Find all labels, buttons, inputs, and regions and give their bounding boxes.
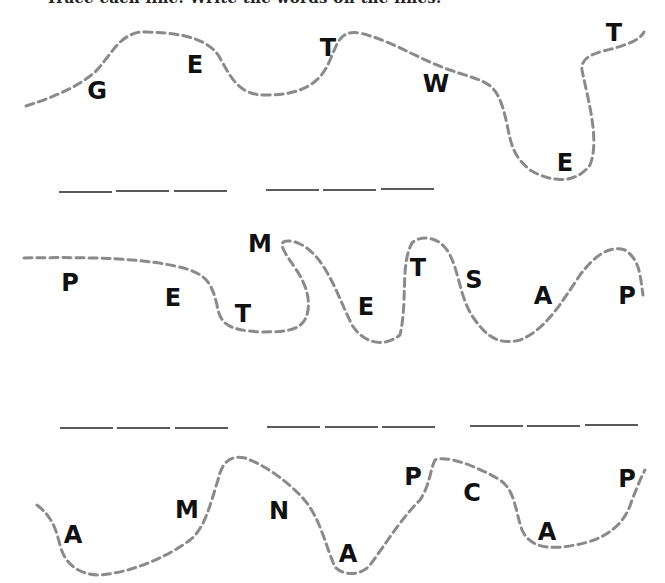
answer-blank[interactable] xyxy=(470,425,523,427)
trace-letter: E xyxy=(358,295,374,319)
trace-letter: W xyxy=(423,72,449,96)
trace-letter: A xyxy=(538,520,557,544)
answer-blank[interactable] xyxy=(585,424,638,426)
trace-letter: A xyxy=(534,284,553,308)
answer-blank[interactable] xyxy=(59,191,112,193)
trace-letter: M xyxy=(248,232,272,256)
answer-blank[interactable] xyxy=(174,190,227,192)
trace-letter: E xyxy=(557,151,573,175)
answer-blank[interactable] xyxy=(60,427,113,429)
answer-blank[interactable] xyxy=(266,189,319,191)
trace-letter: P xyxy=(61,271,79,295)
trace-letter: P xyxy=(618,467,636,491)
trace-letter: T xyxy=(235,302,251,326)
trace-letter: T xyxy=(410,256,426,280)
answer-blank[interactable] xyxy=(117,427,170,429)
answer-blank[interactable] xyxy=(116,190,169,192)
trace-letter: C xyxy=(463,481,481,505)
answer-blank[interactable] xyxy=(382,426,435,428)
answer-blank[interactable] xyxy=(381,188,434,190)
trace-letter: T xyxy=(320,36,336,60)
answer-blank[interactable] xyxy=(323,189,376,191)
trace-letter: E xyxy=(187,53,203,77)
trace-letter: T xyxy=(606,21,622,45)
trace-letter: A xyxy=(339,542,358,566)
trace-letter: E xyxy=(165,286,181,310)
trace-letter: P xyxy=(618,284,636,308)
trace-letter: S xyxy=(465,268,482,292)
answer-blank[interactable] xyxy=(325,426,378,428)
trace-letter: M xyxy=(175,498,199,522)
answer-blank[interactable] xyxy=(527,425,580,427)
answer-blank[interactable] xyxy=(175,427,228,429)
trace-letter: G xyxy=(87,79,107,103)
answer-blank[interactable] xyxy=(267,426,320,428)
trace-letter: N xyxy=(269,499,289,523)
trace-letter: A xyxy=(64,523,83,547)
trace-letter: P xyxy=(404,465,422,489)
